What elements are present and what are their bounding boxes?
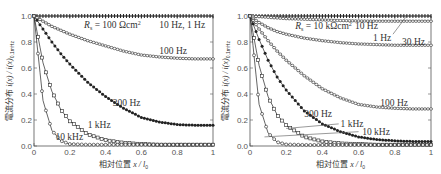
x-tick-label: 0.8 (172, 148, 184, 157)
x-tick-label: 0.2 (64, 148, 76, 157)
x-tick-label: 0.4 (100, 148, 112, 157)
left-chart-panel: 0.00.20.40.60.81.000.20.40.60.81Rs = 100… (4, 12, 216, 170)
y-tick-label: 0.4 (21, 90, 33, 99)
x-axis-label: 相対位置 x / l0 (316, 159, 365, 170)
series-label: 1 kHz (88, 120, 111, 130)
series-1-khz (33, 15, 215, 147)
y-tick-label: 0.2 (21, 116, 33, 125)
series-label: 100 Hz (380, 98, 408, 108)
x-tick-label: 1 (429, 148, 434, 157)
series-label: 30 Hz (402, 37, 425, 47)
x-tick-label: 0 (248, 148, 253, 157)
y-axis-label: 電流分布 i(x) / i(x)0.1mHz (220, 41, 231, 121)
rs-annotation: Rs = 100 Ωcm2 (83, 20, 141, 31)
x-tick-label: 0.2 (281, 148, 293, 157)
x-tick-label: 0 (32, 148, 37, 157)
figure: 0.00.20.40.60.81.000.20.40.60.81Rs = 100… (0, 0, 441, 174)
series-label: 300 Hz (113, 98, 141, 108)
y-axis-label: 電流分布 i(x) / i(x)0.1mHz (4, 41, 15, 121)
x-tick-label: 0.4 (317, 148, 329, 157)
leader-line (264, 132, 358, 137)
series-10-khz (33, 15, 215, 147)
x-tick-label: 1 (211, 148, 216, 157)
y-tick-label: 0.6 (21, 64, 33, 73)
series-label: 100 Hz (159, 46, 187, 56)
x-axis-label: 相対位置 x / l0 (99, 159, 148, 170)
rs-annotation: Rs = 10 kΩcm2 (294, 21, 352, 32)
series-label: 10 kHz (362, 127, 390, 137)
y-tick-label: 0.8 (237, 38, 249, 47)
y-tick-label: 0.8 (21, 38, 33, 47)
series-label: 10 Hz (355, 21, 378, 31)
x-tick-label: 0.8 (389, 148, 401, 157)
y-tick-label: 0.6 (237, 64, 249, 73)
y-tick-label: 0.4 (237, 90, 249, 99)
y-tick-label: 0.2 (237, 116, 249, 125)
series-label: 1 kHz (341, 119, 364, 129)
x-tick-label: 0.6 (353, 148, 365, 157)
series-label: 10 Hz, 1 Hz (159, 20, 205, 30)
y-tick-label: 1.0 (21, 12, 33, 21)
plot-frame (34, 16, 213, 146)
series-label: 1 Hz (373, 33, 391, 43)
series-10-hz-1-hz (34, 14, 213, 18)
x-tick-label: 0.6 (136, 148, 148, 157)
y-tick-label: 1.0 (237, 12, 249, 21)
series-label: 300 Hz (304, 109, 332, 119)
series-label: 10 kHz (55, 132, 83, 142)
right-chart-panel: 0.00.20.40.60.81.000.20.40.60.81Rs = 10 … (220, 12, 434, 170)
